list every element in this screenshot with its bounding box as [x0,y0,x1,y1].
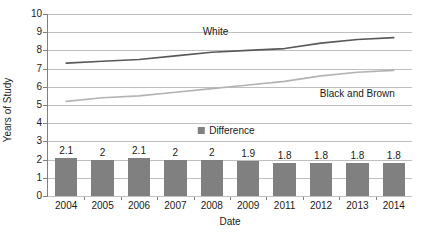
y-tick-label: 10 [24,9,42,19]
line-white [66,38,394,63]
bar-value-label: 1.8 [314,150,328,161]
y-tick-label: 1 [24,173,42,183]
x-tick-label: 2013 [346,200,368,211]
x-tick-label: 2006 [128,200,150,211]
legend-label-difference: Difference [209,125,254,136]
legend: Difference [198,125,254,136]
y-tick-label: 5 [24,100,42,110]
y-axis-tick-labels: 012345678910 [20,0,42,235]
plot-area: 2.122.1221.91.81.81.81.8 WhiteBlack and … [48,14,412,196]
bar-value-label: 1.9 [241,148,255,159]
bar-value-label: 2.1 [59,145,73,156]
bar-value-label: 1.8 [350,150,364,161]
y-tick-label: 8 [24,45,42,55]
y-axis-title: Years of Study [2,60,13,160]
gridline [48,196,412,197]
x-axis-tick-labels: 2004200520062007200820092011201220132014 [48,200,412,214]
y-tick-label: 4 [24,118,42,128]
bar-value-label: 2 [173,147,179,158]
series-label-white: White [203,26,229,37]
bar-value-label: 2 [209,147,215,158]
x-tick-label: 2005 [91,200,113,211]
x-tick-label: 2011 [274,200,296,211]
line-series-layer [48,14,412,196]
y-tick-label: 6 [24,82,42,92]
y-tick-label: 3 [24,136,42,146]
bar-value-label: 2 [100,147,106,158]
x-axis-title: Date [48,216,412,227]
x-tick-label: 2012 [310,200,332,211]
chart-container: Years of Study 012345678910 2.122.1221.9… [0,0,430,235]
x-tick-label: 2008 [201,200,223,211]
x-tick-label: 2004 [55,200,77,211]
x-tick-label: 2014 [383,200,405,211]
series-label-black-and-brown: Black and Brown [320,88,395,99]
y-tick-label: 9 [24,27,42,37]
legend-swatch-difference [198,127,205,134]
y-tick-label: 7 [24,64,42,74]
x-tick-label: 2009 [237,200,259,211]
bar-value-label: 1.8 [278,150,292,161]
bar-value-label: 1.8 [387,150,401,161]
y-tick-label: 0 [24,191,42,201]
y-tick-label: 2 [24,155,42,165]
bar-value-label: 2.1 [132,145,146,156]
x-tick-label: 2007 [164,200,186,211]
